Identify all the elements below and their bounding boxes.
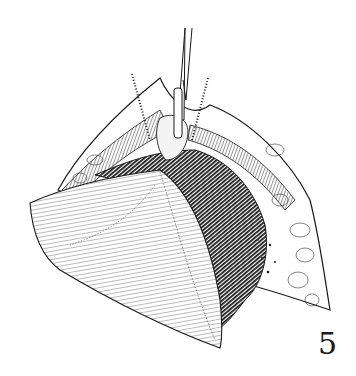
surgical-illustration xyxy=(0,0,356,376)
figure-number: 5 xyxy=(318,329,337,359)
